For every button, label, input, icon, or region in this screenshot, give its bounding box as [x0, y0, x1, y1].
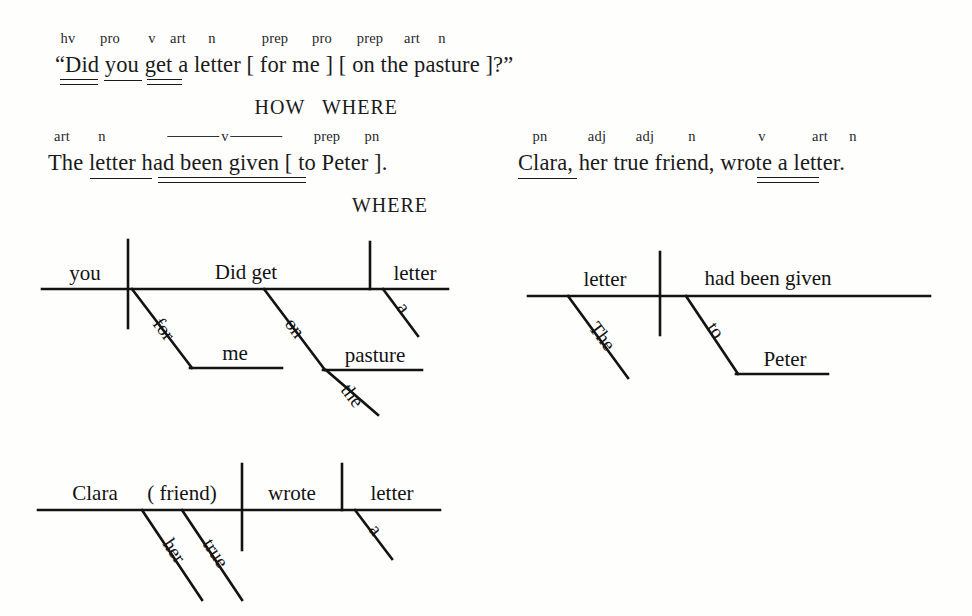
pos-tag: pro	[312, 30, 332, 47]
diagram-1-canvas: you Did get letter for me on pasture the…	[30, 232, 500, 417]
underline-single-clara	[518, 178, 577, 179]
diagram-word-appositive: ( friend)	[147, 481, 216, 505]
pos-tag: n	[688, 128, 695, 145]
diagram-word-article-the: The	[585, 318, 620, 355]
pos-tag-row-1: hv pro v art n prep pro prep art n	[0, 30, 972, 50]
underline-double-wrote	[757, 177, 819, 183]
pos-tag: n	[208, 30, 215, 47]
pos-tag: pro	[100, 30, 120, 47]
function-tag-how: HOW	[255, 96, 306, 119]
pos-tag: n	[849, 128, 856, 145]
diagram-word-direct-object: letter	[370, 481, 413, 505]
pos-tag: art	[404, 30, 420, 47]
underline-double-did	[60, 79, 98, 85]
pos-tag: v	[148, 30, 155, 47]
pos-tag: art	[170, 30, 186, 47]
pos-tag: prep	[262, 30, 289, 47]
diagram-word-prep-to: to	[703, 318, 729, 343]
pos-tag-row-3: pn adj adj n v art n	[0, 128, 972, 148]
underline-single-you	[104, 80, 142, 81]
function-tag-row-2: WHERE	[0, 194, 520, 220]
pos-tag: n	[438, 30, 445, 47]
diagram-word-obj-me: me	[222, 341, 248, 365]
diagram-word-article-a: a	[393, 298, 415, 318]
sentence-diagram-3: Clara ( friend) wrote letter her true a	[30, 452, 470, 612]
diagram-word-obj-pasture: pasture	[345, 343, 406, 367]
diagram-word-subject: you	[69, 261, 101, 285]
sentence-text: Clara, her true friend, wrote a letter.	[518, 148, 845, 178]
annotated-sentence-3: pn adj adj n v art n Clara, her true fri…	[0, 128, 972, 180]
sentence-diagram-1: you Did get letter for me on pasture the…	[30, 232, 500, 417]
diagram-word-obj-peter: Peter	[763, 347, 806, 371]
function-tag-where: WHERE	[352, 194, 428, 217]
diagram-3-canvas: Clara ( friend) wrote letter her true a	[30, 452, 470, 612]
pos-tag: adj	[636, 128, 654, 145]
diagram-word-subject: letter	[583, 267, 626, 291]
worksheet-page: hv pro v art n prep pro prep art n “Did …	[0, 0, 972, 616]
pos-tag: pn	[533, 128, 548, 145]
diagram-word-verb: had been given	[704, 266, 832, 290]
diagram-word-adjective-true: true	[199, 534, 233, 571]
pos-tag: prep	[357, 30, 384, 47]
sentence-text: “Did you get a letter [ for me ] [ on th…	[55, 50, 513, 80]
function-tag-row-1: HOW WHERE	[0, 96, 972, 122]
sentence-diagram-2: letter had been given The to Peter	[510, 240, 940, 390]
pos-tag: adj	[588, 128, 606, 145]
pos-tag: art	[812, 128, 828, 145]
annotated-sentence-1: hv pro v art n prep pro prep art n “Did …	[0, 30, 972, 122]
function-tag-where: WHERE	[322, 96, 398, 119]
diagram-word-subject: Clara	[72, 481, 118, 505]
diagram-word-verb: wrote	[268, 481, 316, 505]
pos-tag: v	[758, 128, 765, 145]
sentence-text-row-1: “Did you get a letter [ for me ] [ on th…	[0, 50, 972, 82]
diagram-word-verb: Did get	[215, 260, 278, 284]
pos-tag: hv	[61, 30, 76, 47]
underline-double-get	[147, 79, 182, 85]
diagram-2-canvas: letter had been given The to Peter	[510, 240, 940, 390]
diagram-word-adjective-her: her	[159, 534, 191, 567]
diagram-word-direct-object: letter	[393, 261, 436, 285]
sentence-text-row-3: Clara, her true friend, wrote a letter.	[0, 148, 972, 180]
